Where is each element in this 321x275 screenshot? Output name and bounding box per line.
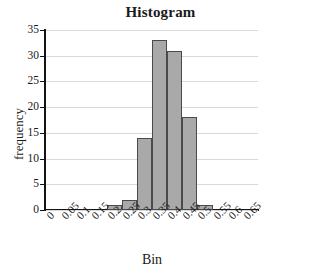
y-tick-mark (40, 210, 45, 211)
x-axis-title: Bin (46, 252, 258, 268)
y-tick-mark (40, 107, 45, 108)
y-tick-mark (40, 56, 45, 57)
x-tick-label: 0 (44, 209, 56, 221)
x-tick-label: 0.65 (241, 199, 263, 221)
y-tick-mark (40, 159, 45, 160)
y-tick-mark (40, 30, 45, 31)
x-axis-tick-labels: 00.050.10.150.20.250.30.350.40.450.50.55… (0, 0, 321, 275)
y-tick-mark (40, 81, 45, 82)
y-tick-mark (40, 184, 45, 185)
y-tick-mark (40, 133, 45, 134)
histogram-chart: Histogram frequency 05101520253035 00.05… (0, 0, 321, 275)
